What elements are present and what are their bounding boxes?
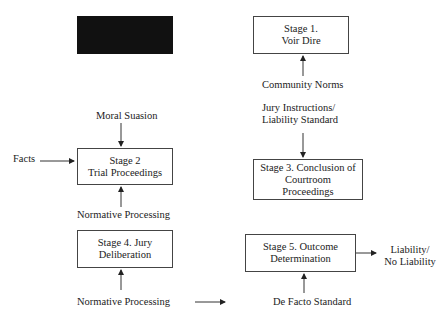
- connector-arrows: [0, 0, 442, 319]
